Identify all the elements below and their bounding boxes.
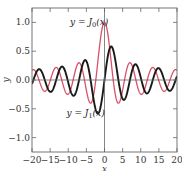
bessel-chart: −20−15−10−505101520−1.0−0.50.00.51.0xyy … (0, 0, 182, 171)
x-tick-label: −20 (23, 155, 42, 165)
y-axis-title: y (1, 77, 11, 84)
x-tick-label: −15 (41, 155, 60, 165)
y-tick-label: −1.0 (8, 133, 30, 143)
x-tick-label: 10 (135, 155, 147, 165)
y-tick-label: −0.5 (8, 104, 30, 114)
x-tick-label: −10 (59, 155, 78, 165)
y-tick-label: 0.0 (16, 75, 31, 85)
x-tick-label: 15 (153, 155, 165, 165)
labels: −20−15−10−505101520−1.0−0.50.00.51.0xyy … (1, 17, 182, 171)
y-tick-label: 1.0 (16, 17, 31, 27)
axes (32, 8, 177, 152)
x-tick-label: 5 (120, 155, 126, 165)
x-axis-title: x (102, 164, 107, 171)
series-label-1: y = J1(x) (65, 108, 105, 120)
x-tick-label: −5 (80, 155, 94, 165)
x-tick-label: 20 (171, 155, 182, 165)
y-tick-label: 0.5 (16, 46, 31, 56)
